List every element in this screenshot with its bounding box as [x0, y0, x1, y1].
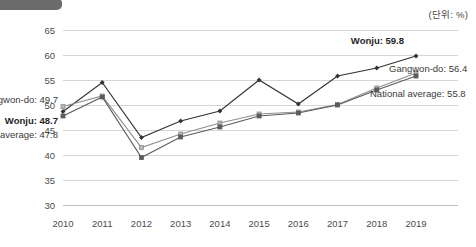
- series-wonju: [61, 54, 419, 140]
- x-axis-tick-label: 2010: [52, 218, 73, 229]
- x-axis-tick-label: 2019: [405, 218, 426, 229]
- data-point: [179, 135, 183, 139]
- unit-note: (단위: %): [429, 7, 468, 21]
- data-point: [374, 66, 379, 71]
- start-label-national-average: National average: 47.8: [0, 129, 58, 140]
- end-label-gangwon-do: Gangwon-do: 56.4: [389, 63, 467, 74]
- data-point: [218, 125, 222, 129]
- y-axis-tick-label: 35: [44, 175, 55, 186]
- series-layer: [61, 54, 419, 160]
- x-axis-tick-label: 2016: [288, 218, 309, 229]
- start-label-wonju: Wonju: 48.7: [5, 115, 58, 126]
- series-line: [63, 73, 416, 148]
- data-point: [414, 74, 418, 78]
- y-axis-tick-label: 60: [44, 50, 55, 61]
- data-point: [61, 105, 65, 109]
- x-axis-tick-label: 2014: [209, 218, 230, 229]
- y-axis-tick-label: 55: [44, 75, 55, 86]
- end-label-wonju: Wonju: 59.8: [351, 35, 404, 46]
- series-gangwon-do: [61, 71, 418, 150]
- data-point: [414, 54, 419, 59]
- y-axis-tick-label: 40: [44, 150, 55, 161]
- x-axis-tick-label: 2012: [131, 218, 152, 229]
- series-line: [63, 76, 416, 158]
- x-axis-tick-label: 2013: [170, 218, 191, 229]
- data-point: [336, 103, 340, 107]
- data-point: [61, 114, 65, 118]
- x-axis-tick-label: 2015: [249, 218, 270, 229]
- start-label-gangwon-do: Gangwon-do: 49.7: [0, 94, 58, 105]
- y-axis-tick-label: 65: [44, 25, 55, 36]
- x-axis-tick-labels: 2010201120122013201420152016201720182019: [52, 218, 426, 229]
- series-national-average: [61, 74, 418, 160]
- x-axis-tick-label: 2017: [327, 218, 348, 229]
- data-point: [178, 119, 183, 124]
- corner-tab-decoration: [0, 0, 62, 10]
- data-point: [139, 146, 143, 150]
- endpoint-annotations: Gangwon-do: 49.7Wonju: 48.7National aver…: [0, 35, 467, 140]
- x-axis-tick-label: 2018: [366, 218, 387, 229]
- data-point: [257, 114, 261, 118]
- chart-container: (단위: %) 3035404550556065 201020112012201…: [0, 0, 476, 247]
- data-point: [139, 156, 143, 160]
- x-axis-tick-label: 2011: [92, 218, 112, 229]
- data-point: [218, 121, 222, 125]
- data-point: [296, 111, 300, 115]
- series-line: [63, 56, 416, 138]
- line-chart: 3035404550556065 20102011201220132014201…: [0, 0, 476, 247]
- data-point: [100, 95, 104, 99]
- end-label-national-average: National average: 55.8: [370, 88, 466, 99]
- y-axis-tick-label: 30: [44, 200, 55, 211]
